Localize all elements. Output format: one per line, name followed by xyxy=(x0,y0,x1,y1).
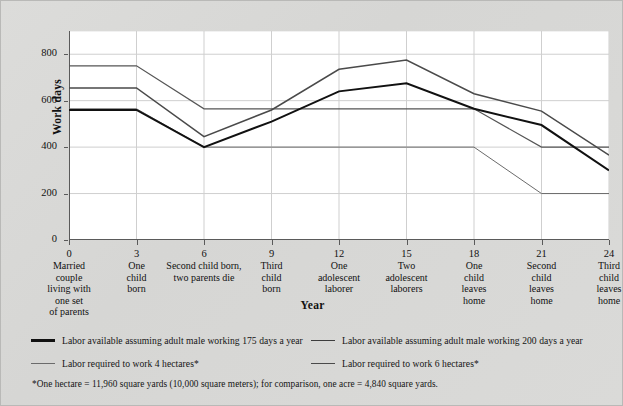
legend-item-label: Labor required to work 6 hectares* xyxy=(342,358,479,369)
x-tick-mark xyxy=(407,240,408,245)
x-tick-mark xyxy=(474,240,475,245)
x-tick-mark xyxy=(69,240,70,245)
y-tick-label: 200 xyxy=(23,187,57,198)
y-axis-title: Work days xyxy=(51,47,63,167)
y-tick-mark xyxy=(64,240,68,241)
legend-item-label: Labor required to work 4 hectares* xyxy=(62,358,199,369)
legend-line-swatch-icon xyxy=(31,339,55,341)
line-chart-svg xyxy=(69,31,609,240)
legend-line-swatch-icon xyxy=(311,363,335,364)
legend-item: Labor required to work 4 hectares* xyxy=(31,358,311,369)
y-tick-mark xyxy=(64,101,68,102)
legend-item-label: Labor available assuming adult male work… xyxy=(62,335,303,346)
chart-legend: Labor available assuming adult male work… xyxy=(31,335,596,369)
x-tick-mark xyxy=(542,240,543,245)
y-tick-mark xyxy=(64,54,68,55)
x-tick-label: 24 xyxy=(561,248,623,259)
legend-item: Labor required to work 6 hectares* xyxy=(311,358,596,369)
x-tick-mark xyxy=(137,240,138,245)
y-tick-label: 800 xyxy=(23,47,57,58)
x-tick-group: 24Thirdchildleaveshome xyxy=(561,248,623,306)
y-tick-label: 600 xyxy=(23,94,57,105)
x-tick-mark xyxy=(204,240,205,245)
y-tick-mark xyxy=(64,147,68,148)
x-tick-mark xyxy=(272,240,273,245)
x-tick-mark xyxy=(339,240,340,245)
legend-item: Labor available assuming adult male work… xyxy=(311,335,596,346)
y-tick-label: 400 xyxy=(23,140,57,151)
x-tick-mark xyxy=(609,240,610,245)
legend-item-label: Labor available assuming adult male work… xyxy=(342,335,583,346)
plot-area xyxy=(69,31,609,240)
legend-line-swatch-icon xyxy=(31,363,55,364)
legend-item: Labor available assuming adult male work… xyxy=(31,335,311,346)
y-tick-mark xyxy=(64,194,68,195)
figure-panel: 0200400600800 Work days 0Marriedcoupleli… xyxy=(0,0,623,406)
x-axis-title: Year xyxy=(1,299,623,311)
legend-line-swatch-icon xyxy=(311,340,335,342)
y-tick-label: 0 xyxy=(23,233,57,244)
footnote: *One hectare = 11,960 square yards (10,0… xyxy=(32,379,602,389)
